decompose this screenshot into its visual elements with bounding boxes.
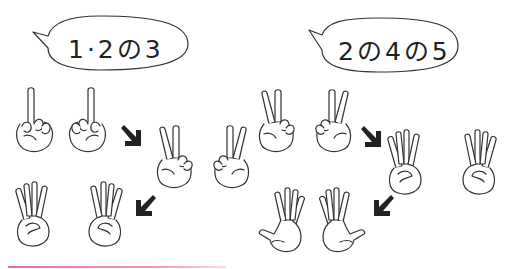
- hand-counting-illustration: 1·2の3 2の4の5: [0, 0, 510, 269]
- hand-four-left: [388, 130, 421, 194]
- hand-five-right: [320, 188, 365, 252]
- hand-three-left: [16, 182, 49, 246]
- hand-five-left: [259, 188, 304, 252]
- hand-three-right: [89, 182, 122, 246]
- hand-one-right: [69, 88, 105, 152]
- bubble-text-left: 1·2の3: [68, 29, 164, 65]
- pink-underline: [8, 266, 226, 268]
- bubble-text-right: 2の4の5: [338, 31, 451, 67]
- hand-one-left: [17, 88, 53, 152]
- arrow-down-right-icon-2: [361, 126, 381, 147]
- hand-two-left: [157, 126, 192, 188]
- arrow-down-left-icon: [136, 195, 156, 216]
- arrow-down-left-icon-2: [374, 195, 394, 216]
- arrow-down-right-icon: [121, 125, 141, 146]
- hand-two-left-b: [259, 90, 294, 152]
- hand-four-right: [463, 130, 496, 194]
- hand-two-right-b: [316, 90, 351, 152]
- hand-two-right: [214, 126, 249, 188]
